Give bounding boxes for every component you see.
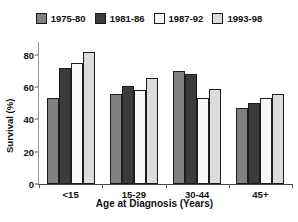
legend-swatch-icon — [154, 13, 165, 24]
legend-swatch-icon — [95, 13, 106, 24]
bar-1993-98-30-44 — [209, 89, 221, 184]
bar-group-30-44 — [166, 42, 229, 184]
legend-swatch-icon — [36, 13, 47, 24]
y-tick-mark — [35, 184, 38, 185]
bar-1975-80-45+ — [236, 108, 248, 184]
legend-label: 1993-98 — [227, 13, 262, 24]
x-tick-mark — [229, 184, 230, 188]
plot-wrapper: Survival (%) 020406080 <1515-2930-4445+ … — [0, 30, 298, 222]
bar-1975-80-15-29 — [110, 94, 122, 184]
legend-label: 1987-92 — [169, 13, 204, 24]
bar-1993-98-15-29 — [146, 78, 158, 185]
bar-1987-92-15-29 — [134, 90, 146, 184]
bar-1987-92-45+ — [260, 98, 272, 184]
legend-item-1987-92: 1987-92 — [154, 13, 204, 24]
bar-1993-98-45+ — [272, 94, 284, 184]
bar-1981-86-15-29 — [122, 86, 134, 184]
bar-1981-86-45+ — [248, 103, 260, 184]
x-tick-mark — [102, 184, 103, 188]
bar-1993-98-<15 — [83, 52, 95, 184]
bar-group-<15 — [39, 42, 102, 184]
legend-swatch-icon — [212, 13, 223, 24]
y-tick-mark — [35, 87, 38, 88]
bars-area — [39, 42, 292, 184]
bar-chart-figure: 1975-801981-861987-921993-98 Survival (%… — [0, 0, 298, 222]
legend-item-1981-86: 1981-86 — [95, 13, 145, 24]
bar-1981-86-<15 — [59, 68, 71, 184]
x-tick-mark — [292, 184, 293, 188]
legend-label: 1981-86 — [110, 13, 145, 24]
bar-1981-86-30-44 — [185, 74, 197, 184]
y-tick-mark — [35, 151, 38, 152]
y-tick-mark — [35, 119, 38, 120]
y-tick-mark — [35, 54, 38, 55]
legend-item-1975-80: 1975-80 — [36, 13, 86, 24]
legend-item-1993-98: 1993-98 — [212, 13, 262, 24]
bar-1987-92-<15 — [71, 63, 83, 184]
bar-1975-80-30-44 — [173, 71, 185, 184]
chart-legend: 1975-801981-861987-921993-98 — [0, 8, 298, 28]
x-tick-mark — [39, 184, 40, 188]
bar-group-15-29 — [102, 42, 165, 184]
y-axis-title: Survival (%) — [2, 76, 16, 176]
x-tick-mark — [166, 184, 167, 188]
legend-label: 1975-80 — [51, 13, 86, 24]
x-axis-title: Age at Diagnosis (Years) — [17, 198, 292, 209]
bar-group-45+ — [229, 42, 292, 184]
bar-1975-80-<15 — [47, 98, 59, 184]
axis-area: 020406080 <1515-2930-4445+ — [17, 42, 292, 184]
bar-1987-92-30-44 — [197, 98, 209, 184]
